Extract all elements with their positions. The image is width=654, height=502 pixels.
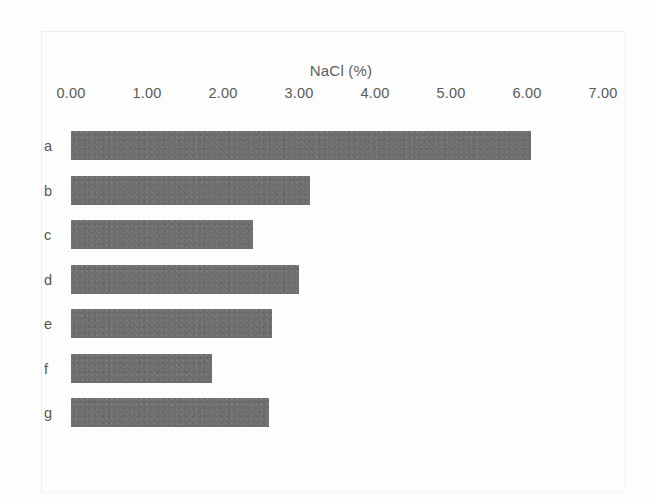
category-label-b: b xyxy=(44,183,68,199)
bar-row: c xyxy=(0,220,654,249)
bar-row: g xyxy=(0,398,654,427)
bar-d xyxy=(71,265,299,294)
bar-a xyxy=(71,131,531,160)
category-label-c: c xyxy=(44,227,68,243)
bar-e xyxy=(71,309,272,338)
bar-row: f xyxy=(0,354,654,383)
category-label-d: d xyxy=(44,272,68,288)
category-label-f: f xyxy=(44,361,68,377)
bar-chart-figure: NaCl (%) 0.001.002.003.004.005.006.007.0… xyxy=(0,0,654,502)
bar-row: b xyxy=(0,176,654,205)
category-label-e: e xyxy=(44,316,68,332)
bar-f xyxy=(71,354,212,383)
bar-row: a xyxy=(0,131,654,160)
category-label-a: a xyxy=(44,138,68,154)
plot-area: abcdefg xyxy=(0,0,654,502)
bar-b xyxy=(71,176,310,205)
bar-g xyxy=(71,398,269,427)
bar-row: d xyxy=(0,265,654,294)
bar-row: e xyxy=(0,309,654,338)
bar-c xyxy=(71,220,253,249)
category-label-g: g xyxy=(44,405,68,421)
